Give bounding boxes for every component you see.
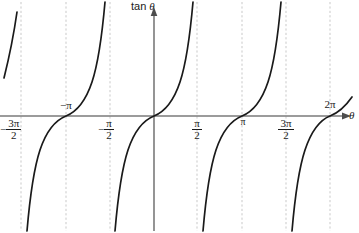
tick-label-three-pi-over-two: 3π2 (266, 118, 306, 141)
tick-fraction-neg-pi-over-two: π2 (104, 118, 114, 141)
y-axis-label-text: tan (131, 0, 146, 12)
tick-fraction-neg-three-pi-over-two: 3π2 (6, 118, 21, 141)
y-axis-label: tan θ (131, 1, 155, 12)
tick-denominator-three-pi-over-two: 2 (278, 130, 293, 141)
tick-fraction-three-pi-over-two: 3π2 (278, 118, 293, 141)
x-axis-label: θ (349, 110, 354, 121)
tick-denominator-neg-pi-over-two: 2 (104, 130, 114, 141)
tangent-branch-partial-left (4, 12, 17, 78)
tick-denominator-pi-over-two: 2 (192, 130, 202, 141)
tick-fraction-pi-over-two: π2 (192, 118, 202, 141)
y-axis-label-theta: θ (149, 0, 154, 12)
tick-label-neg-three-pi-over-two: −3π2 (0, 118, 42, 141)
tick-label-pi-over-two: π2 (177, 118, 217, 141)
tick-label-two-pi: 2π (311, 99, 349, 110)
y-axis (151, 7, 158, 231)
tick-label-neg-pi: −π (46, 100, 86, 111)
tick-denominator-neg-three-pi-over-two: 2 (6, 130, 21, 141)
plot-canvas (0, 0, 359, 233)
tick-label-pi: π (232, 117, 254, 127)
tangent-function-figure: tan θ θ −3π2 −π −π2 π2 π 3π2 2π (0, 0, 359, 233)
tick-label-neg-pi-over-two: −π2 (86, 118, 126, 141)
